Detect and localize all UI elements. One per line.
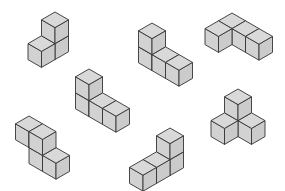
shape-4 — [76, 69, 130, 132]
cube-shapes-canvas — [0, 0, 285, 191]
shape-1 — [28, 12, 69, 67]
shape-5 — [16, 116, 70, 179]
shape-3 — [205, 13, 273, 60]
shape-6 — [130, 128, 184, 191]
shape-2 — [139, 23, 193, 86]
shape-7 — [211, 89, 265, 144]
